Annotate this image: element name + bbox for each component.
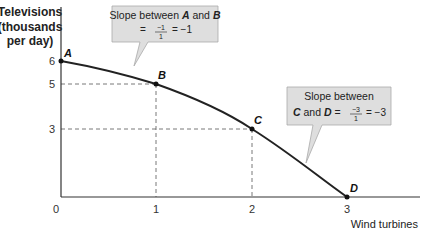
svg-text:per day): per day)	[7, 34, 54, 48]
callout-slope-cd: Slope between C and D = −3 1 = −3	[287, 87, 391, 163]
x-axis-label: Wind turbines	[351, 218, 419, 230]
svg-text:= −1: = −1	[172, 24, 192, 35]
svg-text:−3: −3	[352, 106, 360, 113]
svg-text:−1: −1	[157, 24, 165, 31]
svg-text:(thousands: (thousands	[0, 20, 63, 34]
svg-text:3: 3	[49, 123, 55, 135]
svg-text:5: 5	[49, 78, 55, 90]
svg-text:6: 6	[49, 55, 55, 67]
svg-text:= −3: = −3	[366, 107, 386, 118]
svg-text:=: =	[140, 24, 146, 35]
guide-lines	[61, 84, 252, 197]
svg-text:2: 2	[249, 203, 255, 215]
svg-text:Televisions: Televisions	[0, 5, 63, 19]
point-d-marker	[345, 195, 350, 200]
y-tick-labels: 6 5 3	[49, 55, 55, 135]
svg-text:A: A	[63, 47, 72, 59]
svg-text:B: B	[158, 69, 166, 81]
svg-text:C and D =: C and D =	[293, 106, 341, 118]
point-b-marker	[154, 82, 159, 87]
svg-text:1: 1	[354, 115, 358, 122]
svg-text:Slope between A and B: Slope between A and B	[110, 9, 221, 21]
point-a-marker	[59, 59, 64, 64]
callout-slope-ab: Slope between A and B = −1 1 = −1	[110, 6, 221, 66]
svg-text:3: 3	[344, 203, 350, 215]
svg-text:1: 1	[153, 203, 159, 215]
y-axis-label: Televisions (thousands per day)	[0, 5, 63, 48]
x-tick-labels: 0 1 2 3	[53, 203, 350, 215]
svg-text:Slope between: Slope between	[304, 90, 374, 102]
svg-text:1: 1	[159, 33, 163, 40]
svg-text:C: C	[254, 114, 263, 126]
svg-text:D: D	[350, 182, 358, 194]
point-c-marker	[250, 127, 255, 132]
svg-text:0: 0	[53, 203, 59, 215]
ppf-chart: Televisions (thousands per day) 6 5 3 0 …	[0, 0, 429, 233]
